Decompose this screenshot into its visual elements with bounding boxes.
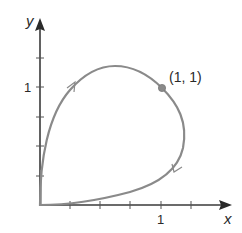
y-axis-label: y xyxy=(25,12,35,29)
x-axis-label: x xyxy=(223,210,232,227)
loop-curve-diagram: (1, 1) 1 1 y x xyxy=(0,0,242,233)
direction-arrow-icon xyxy=(172,164,182,172)
y-tick-label: 1 xyxy=(24,80,31,95)
point-label: (1, 1) xyxy=(169,69,202,85)
axes xyxy=(40,28,222,205)
point-marker xyxy=(158,84,165,91)
x-tick-label: 1 xyxy=(157,212,164,227)
